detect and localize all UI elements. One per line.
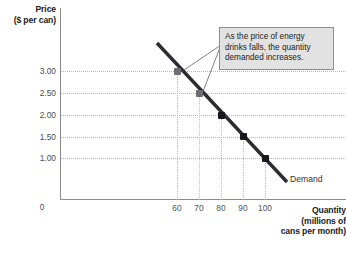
x-axis-title-line1: Quantity [262,205,346,216]
x-axis-title: Quantity (millions of cans per month) [262,205,346,237]
annotation-callout: As the price of energy drinks falls, the… [219,27,334,70]
data-point-90-1-50 [240,133,247,140]
annotation-leader-line-60 [181,45,221,72]
data-point-80-2-00 [218,112,225,119]
data-point-70-2-50 [196,90,203,97]
data-point-100-1-00 [262,155,269,162]
demand-curve-figure: Price ($ per can) 3.00 2.50 2.00 1.50 1.… [0,0,346,258]
data-point-60-3-00 [174,68,181,75]
x-axis-title-line2: (millions of [262,216,346,227]
x-axis-title-line3: cans per month) [262,226,346,237]
demand-curve-label: Demand [290,174,322,184]
